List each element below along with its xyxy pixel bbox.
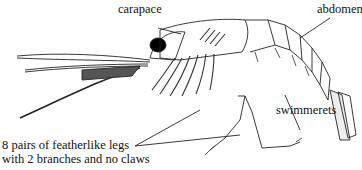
krill-diagram: carapace abdomen swimmerets 8 pairs of f… [0,0,362,170]
eye [150,38,166,52]
feathery-legs [152,28,225,96]
carapace-outline [160,19,248,60]
isolated-leg [210,96,245,150]
legs-leader-2 [135,135,240,146]
label-carapace: carapace [118,3,162,16]
label-swimmerets: swimmerets [276,104,336,117]
label-legs-line2: with 2 branches and no claws [2,153,150,166]
carapace-leader [158,28,181,34]
abdomen-seg1 [245,20,275,52]
swimmerets-strokes [255,48,309,76]
abdomen-leader [300,18,330,38]
label-legs-line1: 8 pairs of featherlike legs [2,139,129,152]
antennal-scale [82,66,140,80]
label-abdomen: abdomen [317,3,362,16]
